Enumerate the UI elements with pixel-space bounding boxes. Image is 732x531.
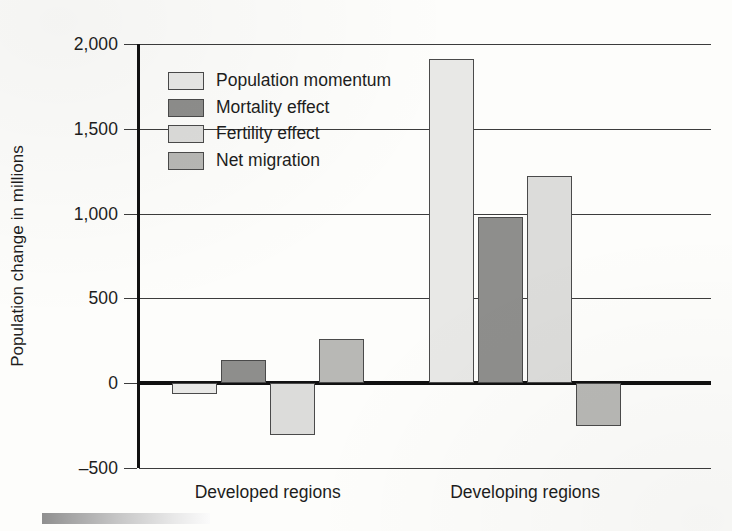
gridline (139, 44, 711, 45)
gridline (139, 214, 711, 215)
y-axis-tick-label: 0 (108, 373, 118, 394)
page-background: 2,0001,5001,0005000–500 Population chang… (0, 0, 732, 531)
bar-population-momentum-developing-regions (429, 59, 474, 383)
population-change-bar-chart: 2,0001,5001,0005000–500 Population chang… (0, 0, 732, 531)
legend-swatch-icon (168, 152, 204, 170)
y-axis-tick (124, 44, 137, 45)
y-axis-tick (124, 468, 137, 469)
y-axis-tick (124, 298, 137, 299)
y-axis-tick-label: 2,000 (74, 34, 118, 55)
legend-item-mortality-effect: Mortality effect (168, 97, 391, 119)
legend-label: Population momentum (216, 72, 391, 90)
bar-population-momentum-developed-regions (172, 383, 217, 394)
legend-item-net-migration: Net migration (168, 150, 391, 172)
y-axis-tick-label: 500 (89, 288, 119, 309)
gridline (139, 468, 711, 469)
chart-legend: Population momentumMortality effectFerti… (168, 70, 391, 172)
legend-item-population-momentum: Population momentum (168, 70, 391, 92)
scan-gradient-strip (42, 513, 210, 524)
legend-swatch-icon (168, 72, 204, 90)
legend-label: Mortality effect (216, 99, 329, 117)
y-axis-tick-label: –500 (79, 458, 118, 479)
legend-item-fertility-effect: Fertility effect (168, 123, 391, 145)
x-axis-group-label: Developed regions (195, 482, 341, 503)
bar-net-migration-developing-regions (576, 383, 621, 425)
y-axis-title: Population change in millions (8, 145, 28, 367)
gridline (139, 298, 711, 299)
y-axis-line: 2,0001,5001,0005000–500 (137, 44, 140, 468)
x-axis-group-label: Developing regions (450, 482, 600, 503)
bar-fertility-effect-developed-regions (270, 383, 315, 435)
bar-fertility-effect-developing-regions (527, 176, 572, 383)
bar-net-migration-developed-regions (319, 339, 364, 383)
y-axis-tick-label: 1,500 (74, 118, 118, 139)
bar-mortality-effect-developed-regions (221, 360, 266, 383)
bar-mortality-effect-developing-regions (478, 217, 523, 383)
legend-label: Net migration (216, 152, 320, 170)
legend-label: Fertility effect (216, 125, 320, 143)
y-axis-tick-label: 1,000 (74, 203, 118, 224)
y-axis-tick (124, 214, 137, 215)
y-axis-tick (124, 129, 137, 130)
legend-swatch-icon (168, 99, 204, 117)
y-axis-tick (124, 383, 137, 384)
legend-swatch-icon (168, 125, 204, 143)
